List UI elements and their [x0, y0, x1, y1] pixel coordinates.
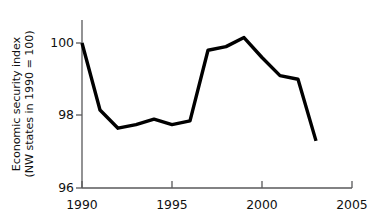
x-axis-ticks	[82, 181, 352, 188]
chart-figure: Economic security index (NW states in 19…	[0, 0, 385, 223]
y-axis-ticks	[76, 43, 82, 188]
data-line-economic-security-index	[82, 38, 316, 141]
plot-area	[0, 0, 385, 223]
